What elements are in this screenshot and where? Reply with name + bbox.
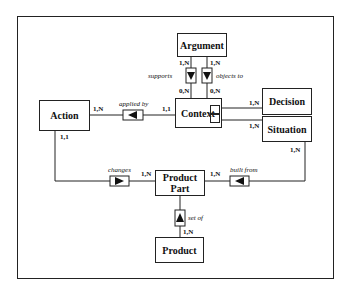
rel-supports: supports bbox=[148, 72, 172, 80]
entity-product-part: Product Part bbox=[155, 170, 205, 196]
entity-situation: Situation bbox=[262, 116, 312, 142]
card-context-applied: 1,1 bbox=[162, 105, 171, 113]
card-context-objects: 0,N bbox=[210, 87, 220, 95]
card-situation-built: 1,N bbox=[290, 146, 300, 154]
rel-set-of: set of bbox=[188, 214, 203, 222]
card-action-changes: 1,1 bbox=[60, 133, 69, 141]
context-split-top bbox=[210, 105, 220, 114]
card-product-setof: 1,N bbox=[183, 228, 193, 236]
card-productpart-built: 1,N bbox=[210, 170, 220, 178]
card-situation-context: 1,N bbox=[249, 122, 259, 130]
card-context-supports: 0,N bbox=[179, 87, 189, 95]
card-argument-objects: 1,N bbox=[210, 59, 220, 67]
entity-action: Action bbox=[39, 100, 90, 131]
rel-changes: changes bbox=[108, 166, 131, 174]
card-action-applied: 1,N bbox=[93, 105, 103, 113]
rel-applied-by: applied by bbox=[119, 100, 148, 108]
card-decision-context: 1,N bbox=[249, 99, 259, 107]
entity-context: Context bbox=[175, 98, 222, 128]
rel-objects-to: objects to bbox=[216, 72, 243, 80]
context-split-bottom bbox=[210, 114, 220, 123]
entity-decision: Decision bbox=[262, 88, 312, 115]
card-productpart-changes: 1,N bbox=[141, 170, 151, 178]
entity-product: Product bbox=[155, 237, 204, 263]
rel-built-from: built from bbox=[230, 166, 258, 174]
entity-argument: Argument bbox=[177, 33, 227, 57]
card-argument-supports: 1,N bbox=[179, 59, 189, 67]
